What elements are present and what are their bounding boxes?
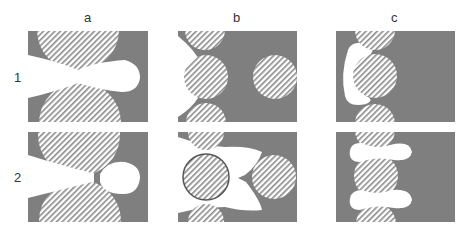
- panel-b2: [178, 114, 297, 234]
- panel-b1: [178, 10, 297, 143]
- panel-c1: [336, 10, 455, 144]
- diagram-panels: [0, 0, 469, 234]
- panel-c2: [336, 110, 455, 234]
